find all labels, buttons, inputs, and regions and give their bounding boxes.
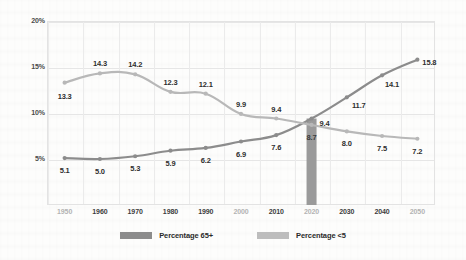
value-label-under5-2000: 9.9 (236, 99, 246, 108)
line-chart: 20%15%10%5% 5.15.05.35.96.26.97.69.411.7… (0, 0, 466, 260)
data-point (133, 72, 137, 76)
data-point (309, 123, 313, 127)
value-label-under5-1970: 14.2 (128, 60, 142, 69)
value-label-under5-1980: 12.3 (163, 77, 177, 86)
data-point (415, 137, 419, 141)
data-point (204, 146, 208, 150)
value-label-65plus-2050: 15.8 (422, 57, 436, 66)
x-axis: 1950196019701980199020002010202020302040… (47, 208, 435, 222)
value-label-65plus-2030: 11.7 (352, 101, 366, 110)
value-label-65plus-1950: 5.1 (60, 166, 70, 175)
y-axis-tick-label: 15% (3, 63, 45, 70)
data-point (133, 154, 137, 158)
data-point (63, 156, 67, 160)
y-axis-tick-label: 5% (3, 155, 45, 162)
value-label-under5-2050: 7.2 (412, 146, 422, 155)
value-label-under5-2030: 8.0 (342, 139, 352, 148)
legend-label: Percentage <5 (296, 231, 346, 240)
y-axis: 20%15%10%5% (0, 0, 45, 260)
data-point (309, 116, 313, 120)
data-point (204, 92, 208, 96)
value-label-65plus-1990: 6.2 (201, 155, 211, 164)
data-point (98, 71, 102, 75)
value-label-under5-2040: 7.5 (377, 144, 387, 153)
data-point (239, 112, 243, 116)
legend-item-under5[interactable]: Percentage <5 (257, 231, 346, 240)
data-point (380, 73, 384, 77)
data-point (345, 129, 349, 133)
x-axis-tick-label-1960: 1960 (92, 208, 107, 215)
data-point (239, 139, 243, 143)
value-label-65plus-2010: 7.6 (271, 143, 281, 152)
legend-swatch-icon (257, 232, 289, 239)
x-axis-tick-label-1980: 1980 (163, 208, 178, 215)
data-point (274, 116, 278, 120)
value-label-under5-1950: 13.3 (58, 91, 72, 100)
value-label-65plus-2020: 9.4 (320, 118, 330, 127)
data-point (98, 157, 102, 161)
value-label-under5-2010: 9.4 (271, 104, 281, 113)
x-axis-tick-label-1970: 1970 (128, 208, 143, 215)
value-label-65plus-2000: 6.9 (236, 149, 246, 158)
data-point (168, 90, 172, 94)
x-axis-tick-label-2010: 2010 (269, 208, 284, 215)
value-label-65plus-2040: 14.1 (385, 80, 399, 89)
x-axis-tick-label-2050: 2050 (410, 208, 425, 215)
y-axis-tick-label: 10% (3, 109, 45, 116)
data-point (168, 149, 172, 153)
value-label-65plus-1960: 5.0 (95, 167, 105, 176)
value-label-under5-1990: 12.1 (199, 79, 213, 88)
x-axis-tick-label-2030: 2030 (339, 208, 354, 215)
x-axis-tick-label-2000: 2000 (233, 208, 248, 215)
x-axis-tick-label-2040: 2040 (374, 208, 389, 215)
y-axis-tick-label: 20% (3, 17, 45, 24)
data-point (63, 81, 67, 85)
series-layer (47, 21, 435, 205)
data-point (274, 133, 278, 137)
value-label-65plus-1970: 5.3 (130, 164, 140, 173)
data-point (345, 95, 349, 99)
data-point (415, 58, 419, 62)
value-label-under5-1960: 14.3 (93, 59, 107, 68)
x-axis-tick-label-2020: 2020 (304, 208, 319, 215)
legend-item-65plus[interactable]: Percentage 65+ (120, 231, 213, 240)
legend-label: Percentage 65+ (159, 231, 213, 240)
value-label-under5-2020: 8.7 (307, 132, 317, 141)
data-point (380, 134, 384, 138)
legend-swatch-icon (120, 232, 152, 239)
x-axis-tick-label-1950: 1950 (57, 208, 72, 215)
value-label-65plus-1980: 5.9 (165, 158, 175, 167)
x-axis-tick-label-1990: 1990 (198, 208, 213, 215)
chart-legend: Percentage 65+Percentage <5 (0, 231, 466, 240)
